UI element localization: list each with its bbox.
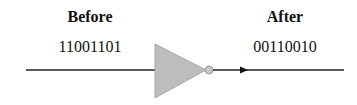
inverter-gate-icon (155, 44, 206, 98)
arrowhead-icon (240, 67, 248, 74)
inverter-diagram (0, 0, 357, 105)
inversion-bubble-icon (205, 66, 213, 74)
